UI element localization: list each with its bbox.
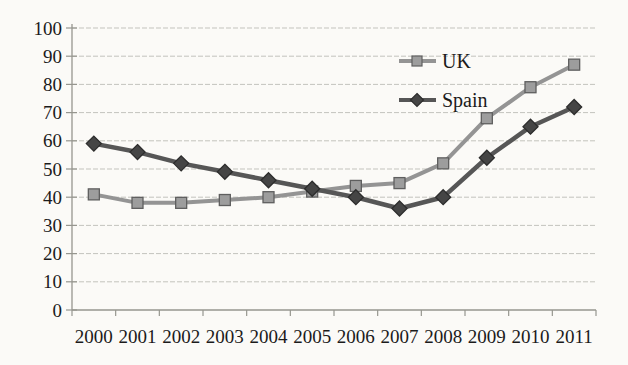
legend-spain-marker-icon: [411, 94, 424, 107]
uk-marker-2010: [525, 82, 536, 93]
legend-uk-marker-icon: [412, 56, 422, 66]
spain-marker-2004: [261, 173, 276, 188]
uk-line: [94, 65, 574, 203]
y-tick-label-40: 40: [43, 187, 62, 208]
y-tick-label-0: 0: [53, 300, 63, 321]
x-tick-label-2004: 2004: [250, 326, 289, 347]
x-tick-label-2003: 2003: [206, 326, 244, 347]
y-tick-label-20: 20: [43, 243, 62, 264]
legend-item-uk: UK: [399, 50, 471, 72]
y-tick-label-50: 50: [43, 159, 62, 180]
uk-marker-2001: [132, 197, 143, 208]
x-tick-label-2007: 2007: [381, 326, 419, 347]
x-tick-label-2008: 2008: [424, 326, 462, 347]
x-tick-label-2001: 2001: [119, 326, 157, 347]
legend-uk-label: UK: [442, 50, 471, 72]
uk-marker-2003: [219, 195, 230, 206]
y-tick-label-10: 10: [43, 271, 62, 292]
legend-item-spain: Spain: [399, 89, 488, 112]
x-axis-tick-labels: 2000200120022003200420052006200720082009…: [75, 326, 593, 347]
legend: UKSpain: [399, 50, 488, 112]
spain-marker-2000: [86, 136, 101, 151]
x-tick-label-2011: 2011: [556, 326, 593, 347]
y-tick-label-100: 100: [34, 18, 63, 39]
spain-marker-2003: [217, 164, 232, 179]
uk-spain-line-chart: 0102030405060708090100 20002001200220032…: [0, 0, 628, 365]
x-tick-label-2002: 2002: [162, 326, 200, 347]
spain-line: [94, 107, 574, 209]
series-uk: [88, 59, 579, 208]
y-tick-label-80: 80: [43, 74, 62, 95]
x-tick-label-2009: 2009: [468, 326, 506, 347]
y-tick-label-90: 90: [43, 46, 62, 67]
chart-page: 0102030405060708090100 20002001200220032…: [0, 0, 628, 365]
legend-spain-label: Spain: [442, 89, 488, 112]
uk-marker-2002: [176, 197, 187, 208]
y-axis-tick-labels: 0102030405060708090100: [34, 18, 63, 321]
y-tick-label-30: 30: [43, 215, 62, 236]
uk-marker-2011: [569, 59, 580, 70]
data-series: [86, 59, 581, 216]
x-tick-label-2005: 2005: [293, 326, 331, 347]
uk-marker-2008: [438, 158, 449, 169]
y-tick-label-70: 70: [43, 102, 62, 123]
x-tick-label-2006: 2006: [337, 326, 375, 347]
axes: [66, 24, 596, 316]
uk-marker-2004: [263, 192, 274, 203]
uk-marker-2007: [394, 178, 405, 189]
y-tick-label-60: 60: [43, 130, 62, 151]
x-tick-label-2000: 2000: [75, 326, 113, 347]
spain-marker-2007: [392, 201, 407, 216]
series-spain: [86, 99, 581, 216]
uk-marker-2009: [481, 113, 492, 124]
uk-marker-2000: [88, 189, 99, 200]
spain-marker-2001: [130, 145, 145, 160]
x-tick-label-2010: 2010: [512, 326, 550, 347]
